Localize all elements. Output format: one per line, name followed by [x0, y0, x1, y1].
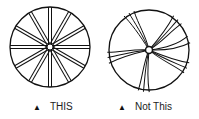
triangle-marker-icon: ▲	[118, 103, 126, 112]
caption-incorrect: ▲Not This	[118, 101, 172, 112]
caption-text: THIS	[50, 101, 73, 112]
wheel-curved-spokes	[104, 10, 192, 96]
caption-text: Not This	[135, 101, 172, 112]
triangle-marker-icon: ▲	[33, 103, 41, 112]
caption-correct: ▲THIS	[33, 101, 73, 112]
wheel-straight-spokes	[10, 7, 90, 87]
